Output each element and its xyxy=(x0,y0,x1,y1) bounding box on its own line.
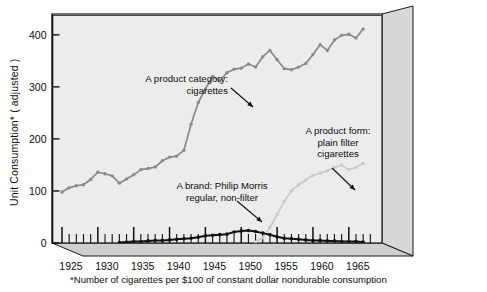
series-point xyxy=(304,178,307,181)
series-point xyxy=(247,229,251,233)
annotation-line: cigarettes xyxy=(317,148,359,159)
series-point xyxy=(261,231,265,235)
series-point xyxy=(268,233,272,237)
y-tick-label: 100 xyxy=(29,185,47,197)
x-tick-label: 1935 xyxy=(131,260,155,272)
series-point xyxy=(361,27,364,30)
series-point xyxy=(189,237,193,241)
y-axis-title-text: Unit Consumption* ( adjusted ) xyxy=(8,59,20,207)
x-tick-label: 1945 xyxy=(203,260,227,272)
x-tick-label: 1950 xyxy=(239,260,263,272)
series-point xyxy=(146,167,149,170)
series-point xyxy=(340,163,343,166)
series-point xyxy=(132,173,135,176)
series-point xyxy=(311,53,314,56)
series-point xyxy=(333,38,336,41)
chart-canvas: 0100200300400 19251930193519401945195019… xyxy=(0,0,487,292)
series-point xyxy=(347,33,350,36)
chart-footnote: *Number of cigarettes per $100 of consta… xyxy=(70,274,387,285)
series-point xyxy=(125,177,128,180)
series-point xyxy=(275,58,278,61)
series-point xyxy=(304,238,308,242)
series-point xyxy=(67,186,70,189)
series-point xyxy=(297,238,301,242)
series-point xyxy=(153,239,157,243)
series-point xyxy=(239,229,243,233)
x-tick-label: 1955 xyxy=(274,260,298,272)
series-point xyxy=(304,62,307,65)
series-point xyxy=(60,190,63,193)
series-point xyxy=(118,181,121,184)
series-point xyxy=(197,101,200,104)
series-point xyxy=(340,34,343,37)
annotation-line: A brand: Philip Morris xyxy=(176,180,267,191)
annotation-line: cigarettes xyxy=(186,85,228,96)
series-point xyxy=(182,149,185,152)
series-point xyxy=(361,162,364,165)
series-point xyxy=(189,123,192,126)
series-point xyxy=(96,171,99,174)
series-point xyxy=(268,226,271,229)
series-point xyxy=(354,166,357,169)
series-point xyxy=(254,65,257,68)
series-point xyxy=(139,240,143,244)
series-point xyxy=(161,239,165,243)
series-point xyxy=(254,230,258,234)
annotation-line: A product form: xyxy=(305,125,370,136)
series-point xyxy=(283,200,286,203)
series-point xyxy=(261,55,264,58)
x-tick-label: 1965 xyxy=(346,260,370,272)
series-point xyxy=(311,239,315,243)
series-point xyxy=(354,240,358,244)
series-point xyxy=(326,169,329,172)
series-point xyxy=(232,230,236,234)
series-point xyxy=(297,65,300,68)
y-tick-label: 400 xyxy=(29,29,47,41)
series-point xyxy=(318,239,322,243)
series-point xyxy=(326,49,329,52)
series-point xyxy=(354,36,357,39)
series-point xyxy=(211,233,215,237)
x-axis-tick-labels: 192519301935194019451950195519601965 xyxy=(59,260,369,272)
series-point xyxy=(225,232,229,236)
series-point xyxy=(196,235,200,239)
series-point xyxy=(175,238,179,242)
series-point xyxy=(282,237,286,241)
series-point xyxy=(347,168,350,171)
series-point xyxy=(139,168,142,171)
series-point xyxy=(232,67,235,70)
box-floor-panel xyxy=(52,243,413,256)
series-point xyxy=(168,155,171,158)
series-point xyxy=(318,43,321,46)
series-point xyxy=(82,183,85,186)
x-tick-label: 1960 xyxy=(310,260,334,272)
series-point xyxy=(290,189,293,192)
series-point xyxy=(275,235,279,239)
series-point xyxy=(268,49,271,52)
series-point xyxy=(311,174,314,177)
y-tick-label: 0 xyxy=(41,237,47,249)
series-point xyxy=(247,62,250,65)
box-right-panel xyxy=(382,6,413,256)
series-point xyxy=(204,234,208,238)
series-point xyxy=(154,165,157,168)
series-point xyxy=(333,239,337,243)
series-point xyxy=(175,154,178,157)
series-point xyxy=(103,172,106,175)
series-point xyxy=(347,240,351,244)
y-tick-label: 200 xyxy=(29,133,47,145)
series-point xyxy=(240,66,243,69)
x-tick-label: 1940 xyxy=(167,260,191,272)
series-point xyxy=(89,178,92,181)
series-point xyxy=(218,233,222,237)
series-point xyxy=(168,238,172,242)
series-point xyxy=(275,213,278,216)
y-axis-title: Unit Consumption* ( adjusted ) xyxy=(8,59,20,207)
chart-figure: 0100200300400 19251930193519401945195019… xyxy=(0,0,487,292)
series-point xyxy=(182,237,186,241)
series-point xyxy=(161,159,164,162)
x-tick-label: 1925 xyxy=(59,260,83,272)
annotation-line: regular, non-filter xyxy=(186,192,259,203)
y-tick-label: 300 xyxy=(29,81,47,93)
x-tick-label: 1930 xyxy=(95,260,119,272)
